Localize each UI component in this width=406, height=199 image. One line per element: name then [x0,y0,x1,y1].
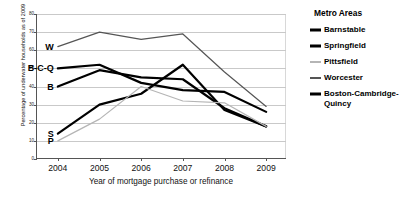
series-line [58,32,266,106]
plot-area: 01020304050607080 2004200520062007200820… [36,14,286,159]
legend-item-label: Barnstable [324,25,365,35]
x-tick-label: 2007 [173,163,192,173]
x-tick-label: 2005 [90,163,109,173]
legend-item[interactable]: Worcester [310,73,406,83]
chart-screenshot: Percentage of underwater households as o… [0,0,406,199]
x-axis-title: Year of mortgage purchase or refinance [36,177,286,186]
legend-swatch-icon [310,57,321,66]
legend-item[interactable]: Barnstable [310,25,406,35]
x-tick-label: 2008 [215,163,234,173]
x-tick-label: 2009 [257,163,276,173]
x-tick-label: 2006 [132,163,151,173]
x-tick-label: 2004 [48,163,67,173]
legend-swatch-icon [310,89,321,98]
series-short-label: W [45,42,56,52]
legend-title: Metro Areas [314,8,406,18]
y-axis-title: Percentage of underwater households as o… [20,0,26,140]
legend-item[interactable]: Pittsfield [310,57,406,67]
legend-item[interactable]: Boston-Cambridge-Quincy [310,89,406,109]
legend-items: BarnstableSpringfieldPittsfieldWorcester… [310,25,406,109]
legend-swatch-icon [310,73,321,82]
legend: Metro Areas BarnstableSpringfieldPittsfi… [310,8,406,115]
legend-swatch-icon [310,41,321,50]
legend-item[interactable]: Springfield [310,41,406,51]
series-short-label: B-C-Q [28,63,56,73]
legend-item-label: Springfield [324,41,366,51]
series-line [58,65,266,112]
legend-item-label: Worcester [324,73,363,83]
legend-swatch-icon [310,25,321,34]
series-short-label: P [48,136,56,146]
legend-item-label: Pittsfield [324,57,358,67]
series-short-label: B [47,82,56,92]
series-lines [37,14,287,159]
y-tick-mark [34,159,37,160]
line-chart: Percentage of underwater households as o… [0,0,306,199]
legend-item-label: Boston-Cambridge-Quincy [324,89,406,109]
